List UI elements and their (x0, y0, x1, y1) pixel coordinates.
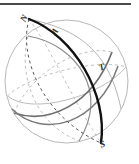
sphere-drawing-canvas (0, 0, 139, 164)
light-ellipse-back-curve (8, 64, 127, 96)
gray-circle-1-back-curve (25, 36, 79, 141)
gray-circle-1-front-curve (28, 36, 91, 141)
light-ellipse-front-curve (8, 67, 127, 104)
sphere-diagram-figure: N A T S (0, 0, 139, 164)
